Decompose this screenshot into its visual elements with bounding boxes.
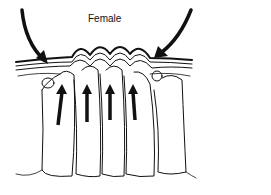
diagram-figure: Female: [0, 0, 271, 195]
tissue-cross-section-drawing: [0, 0, 271, 195]
left-curved-arrow: [22, 10, 44, 60]
right-curved-arrow: [162, 10, 191, 52]
